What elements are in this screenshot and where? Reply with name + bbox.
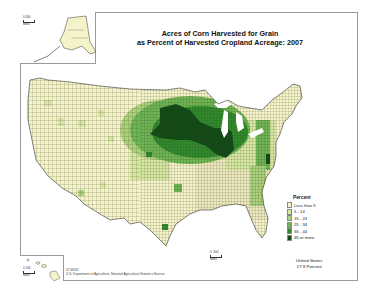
source-text: U.S. Department of Agriculture, National… <box>66 272 165 276</box>
hawaii-scale-unit: Miles <box>23 274 35 278</box>
alaska-scale-max: 300 <box>26 15 31 19</box>
hawaii-scale-bar: 0 100 Miles <box>23 267 35 277</box>
legend-title: Percent <box>293 195 316 200</box>
legend-swatch <box>287 202 292 208</box>
alaska-scale-unit: Miles <box>23 23 35 27</box>
conus-scale-zero: 0 <box>210 250 212 254</box>
conus-scale-bar: 0 300 Miles <box>210 251 222 261</box>
map-legend: Percent Less than 5 5 - 14 15 - 24 25 - … <box>287 195 316 241</box>
source-footnote: 07-M162 U.S. Department of Agriculture, … <box>66 268 165 276</box>
conus-scale-unit: Miles <box>210 258 222 262</box>
legend-label: 35 - 44 <box>294 229 307 234</box>
alaska-scale-zero: 0 <box>23 15 25 19</box>
legend-swatch <box>287 215 292 221</box>
map-title-line2: as Percent of Harvested Cropland Acreage… <box>100 38 340 47</box>
conus-scale-max: 300 <box>213 250 218 254</box>
hawaii-scale-zero: 0 <box>23 266 25 270</box>
legend-label: 15 - 24 <box>294 216 307 221</box>
summary-value: 27.9 Percent <box>296 264 322 270</box>
legend-label: 25 - 34 <box>294 222 307 227</box>
map-title-line1: Acres of Corn Harvested for Grain <box>100 29 340 38</box>
alaska-scale-bar: 0 300 Miles <box>23 16 35 26</box>
hawaii-scale-max: 100 <box>26 266 31 270</box>
us-summary: United States 27.9 Percent <box>296 258 322 269</box>
legend-swatch <box>287 228 292 234</box>
summary-region: United States <box>296 258 322 264</box>
legend-label: 5 - 14 <box>294 209 305 214</box>
legend-label: Less than 5 <box>294 203 316 208</box>
legend-swatch <box>287 209 292 215</box>
legend-label: 45 or more <box>294 235 314 240</box>
legend-item: Less than 5 <box>287 202 316 209</box>
map-title: Acres of Corn Harvested for Grain as Per… <box>100 29 340 47</box>
hawaii-inset: 0 100 Miles <box>20 255 64 281</box>
legend-swatch <box>287 235 292 241</box>
legend-swatch <box>287 222 292 228</box>
legend-item: 45 or more <box>287 235 316 242</box>
alaska-inset: 0 300 Miles <box>20 12 96 64</box>
